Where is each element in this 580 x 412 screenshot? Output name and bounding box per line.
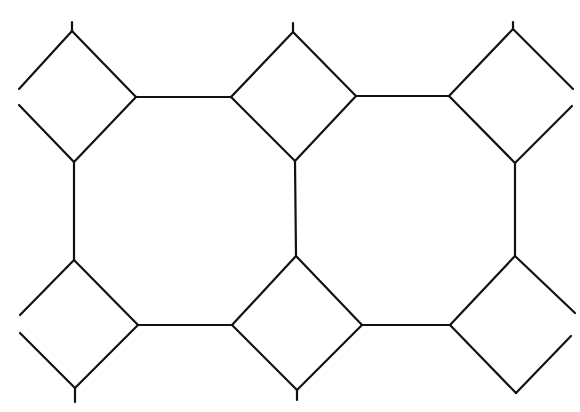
square-bottom-right [450, 256, 575, 393]
square-bottom-left [20, 260, 138, 402]
edge [74, 260, 138, 325]
edge [515, 106, 572, 163]
edge [450, 325, 516, 393]
edge [72, 31, 136, 97]
edge [513, 29, 573, 89]
edge [232, 256, 296, 325]
edge-v-middle [295, 161, 296, 256]
edge [293, 32, 356, 96]
edge [231, 32, 293, 97]
connector-edges [74, 96, 515, 325]
edge [232, 325, 297, 390]
square-top-middle [231, 23, 356, 161]
edge [449, 29, 513, 96]
edge [19, 105, 74, 162]
edge [450, 256, 515, 325]
edge [20, 260, 74, 315]
edge [296, 256, 362, 325]
edge [295, 96, 356, 161]
edge [297, 325, 362, 390]
square-bottom-middle [232, 256, 362, 400]
square-top-right [449, 22, 573, 163]
square-top-left [19, 22, 136, 162]
edge [19, 31, 72, 89]
edge [231, 97, 295, 161]
edge [515, 256, 575, 313]
edge [20, 333, 75, 388]
edge [516, 336, 571, 393]
tiling-diagram [0, 0, 580, 412]
edge [74, 97, 136, 162]
edge [449, 96, 515, 163]
edge [75, 325, 138, 388]
